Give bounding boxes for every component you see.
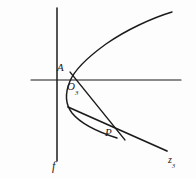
figure-canvas: A O3 P f z3 <box>0 0 196 179</box>
tangent-line-z3 <box>68 107 167 151</box>
parabola-curve <box>66 12 172 138</box>
axis-label-z3: z3 <box>168 155 175 167</box>
geometry-drawing <box>0 0 196 179</box>
directrix-label-f: f <box>52 160 55 172</box>
point-label-a: A <box>57 62 64 73</box>
point-label-origin-o3: O3 <box>67 81 78 95</box>
axis-subscript: 3 <box>172 162 175 169</box>
origin-subscript: 3 <box>75 89 78 96</box>
point-label-p: P <box>105 127 112 138</box>
origin-letter: O <box>67 80 75 92</box>
